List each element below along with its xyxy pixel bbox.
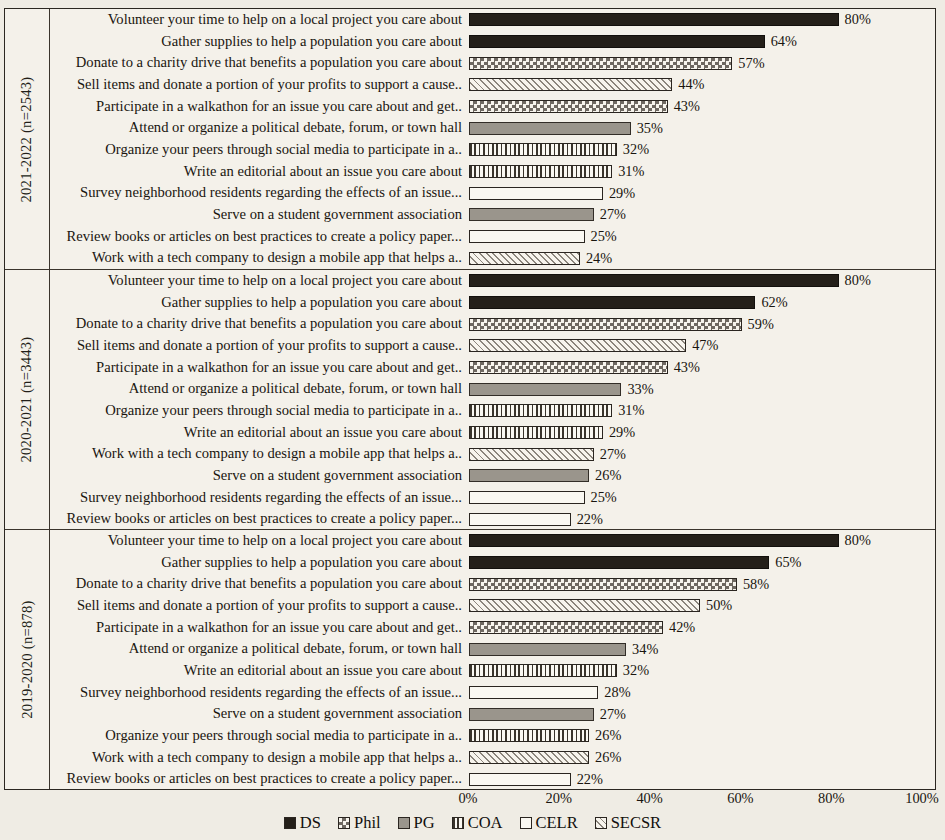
bar-secsr[interactable] — [469, 339, 686, 352]
bar-row[interactable]: Write an editorial about an issue you ca… — [49, 422, 935, 444]
bar-value-label: 59% — [748, 316, 774, 333]
bar-pg[interactable] — [469, 708, 594, 721]
bar-row[interactable]: Attend or organize a political debate, f… — [49, 117, 935, 139]
bar-celr[interactable] — [469, 187, 603, 200]
bar-row[interactable]: Write an editorial about an issue you ca… — [49, 161, 935, 183]
bar-row[interactable]: Sell items and donate a portion of your … — [49, 595, 935, 617]
bar-phil[interactable] — [469, 57, 732, 70]
bar-row[interactable]: Sell items and donate a portion of your … — [49, 74, 935, 96]
bar-coa[interactable] — [469, 664, 617, 677]
bar-ds[interactable] — [469, 296, 755, 309]
x-axis-tick: 100% — [905, 790, 939, 807]
bar-phil[interactable] — [469, 100, 668, 113]
bar-pg[interactable] — [469, 208, 594, 221]
bar-coa[interactable] — [469, 729, 589, 742]
bar-row[interactable]: Participate in a walkathon for an issue … — [49, 617, 935, 639]
bar-value-label: 42% — [669, 619, 695, 636]
bar-pg[interactable] — [469, 469, 589, 482]
bar-row[interactable]: Serve on a student government associatio… — [49, 465, 935, 487]
chart-plot-area: 2021-2022 (n=2543)Volunteer your time to… — [4, 8, 936, 790]
legend-item-phil[interactable]: Phil — [338, 813, 381, 833]
bar-category-label: Work with a tech company to design a mob… — [49, 750, 469, 765]
bar-secsr[interactable] — [469, 78, 672, 91]
bar-ds[interactable] — [469, 556, 769, 569]
bar-row[interactable]: Review books or articles on best practic… — [49, 508, 935, 530]
bar-value-label: 58% — [743, 576, 769, 593]
bar-category-label: Donate to a charity drive that benefits … — [49, 55, 469, 70]
bar-row[interactable]: Organize your peers through social media… — [49, 139, 935, 161]
year-group-label-text: 2019-2020 (n=878) — [19, 600, 36, 718]
bar-row[interactable]: Volunteer your time to help on a local p… — [49, 270, 935, 292]
x-axis-tick: 80% — [818, 790, 844, 807]
bar-coa[interactable] — [469, 404, 612, 417]
bar-track: 34% — [469, 638, 931, 660]
bar-category-label: Donate to a charity drive that benefits … — [49, 316, 469, 331]
bar-pg[interactable] — [469, 383, 621, 396]
bar-row[interactable]: Volunteer your time to help on a local p… — [49, 9, 935, 31]
bar-ds[interactable] — [469, 534, 839, 547]
bar-row[interactable]: Organize your peers through social media… — [49, 725, 935, 747]
bar-celr[interactable] — [469, 773, 571, 786]
bar-ds[interactable] — [469, 35, 765, 48]
legend-item-coa[interactable]: COA — [452, 813, 503, 833]
bar-row[interactable]: Survey neighborhood residents regarding … — [49, 487, 935, 509]
bar-row[interactable]: Survey neighborhood residents regarding … — [49, 682, 935, 704]
legend-item-secsr[interactable]: SECSR — [595, 813, 661, 833]
bar-celr[interactable] — [469, 686, 598, 699]
bar-row[interactable]: Volunteer your time to help on a local p… — [49, 530, 935, 552]
bar-row[interactable]: Donate to a charity drive that benefits … — [49, 313, 935, 335]
bar-celr[interactable] — [469, 230, 585, 243]
bar-row[interactable]: Donate to a charity drive that benefits … — [49, 52, 935, 74]
bar-coa[interactable] — [469, 426, 603, 439]
bar-secsr[interactable] — [469, 751, 589, 764]
bar-value-label: 22% — [577, 771, 603, 788]
bar-secsr[interactable] — [469, 599, 700, 612]
bar-ds[interactable] — [469, 13, 839, 26]
bar-row[interactable]: Participate in a walkathon for an issue … — [49, 357, 935, 379]
bar-phil[interactable] — [469, 621, 663, 634]
bar-row[interactable]: Organize your peers through social media… — [49, 400, 935, 422]
bar-row[interactable]: Serve on a student government associatio… — [49, 703, 935, 725]
bar-row[interactable]: Review books or articles on best practic… — [49, 226, 935, 248]
bar-celr[interactable] — [469, 491, 585, 504]
bar-category-label: Sell items and donate a portion of your … — [49, 77, 469, 92]
bar-row[interactable]: Participate in a walkathon for an issue … — [49, 96, 935, 118]
bar-row[interactable]: Gather supplies to help a population you… — [49, 552, 935, 574]
bar-track: 25% — [469, 487, 931, 509]
bar-row[interactable]: Work with a tech company to design a mob… — [49, 747, 935, 769]
bar-phil[interactable] — [469, 578, 737, 591]
bar-row[interactable]: Gather supplies to help a population you… — [49, 292, 935, 314]
bar-phil[interactable] — [469, 361, 668, 374]
bar-row[interactable]: Attend or organize a political debate, f… — [49, 638, 935, 660]
bar-row[interactable]: Work with a tech company to design a mob… — [49, 443, 935, 465]
bar-pg[interactable] — [469, 643, 626, 656]
bar-row[interactable]: Serve on a student government associatio… — [49, 204, 935, 226]
bar-celr[interactable] — [469, 513, 571, 526]
bar-row[interactable]: Attend or organize a political debate, f… — [49, 378, 935, 400]
bar-coa[interactable] — [469, 165, 612, 178]
bar-row[interactable]: Donate to a charity drive that benefits … — [49, 573, 935, 595]
bar-category-label: Sell items and donate a portion of your … — [49, 598, 469, 613]
bar-category-label: Review books or articles on best practic… — [49, 229, 469, 244]
bar-row[interactable]: Survey neighborhood residents regarding … — [49, 182, 935, 204]
bar-pg[interactable] — [469, 122, 631, 135]
legend-item-ds[interactable]: DS — [284, 813, 321, 833]
bar-row[interactable]: Work with a tech company to design a mob… — [49, 247, 935, 269]
bar-row[interactable]: Review books or articles on best practic… — [49, 768, 935, 790]
bar-phil[interactable] — [469, 318, 742, 331]
year-group-band: 2019-2020 (n=878)Volunteer your time to … — [5, 529, 935, 789]
legend-item-pg[interactable]: PG — [398, 813, 435, 833]
bar-secsr[interactable] — [469, 448, 594, 461]
bar-track: 62% — [469, 292, 931, 314]
bar-coa[interactable] — [469, 143, 617, 156]
legend-swatch-coa-icon — [452, 817, 464, 829]
legend-item-celr[interactable]: CELR — [520, 813, 578, 833]
chart-legend: DSPhilPGCOACELRSECSR — [0, 810, 945, 836]
bar-row[interactable]: Write an editorial about an issue you ca… — [49, 660, 935, 682]
bar-ds[interactable] — [469, 274, 839, 287]
bar-row[interactable]: Sell items and donate a portion of your … — [49, 335, 935, 357]
year-group-label-text: 2021-2022 (n=2543) — [19, 76, 36, 202]
year-group-band: 2020-2021 (n=3443)Volunteer your time to… — [5, 269, 935, 529]
bar-row[interactable]: Gather supplies to help a population you… — [49, 31, 935, 53]
bar-secsr[interactable] — [469, 252, 580, 265]
